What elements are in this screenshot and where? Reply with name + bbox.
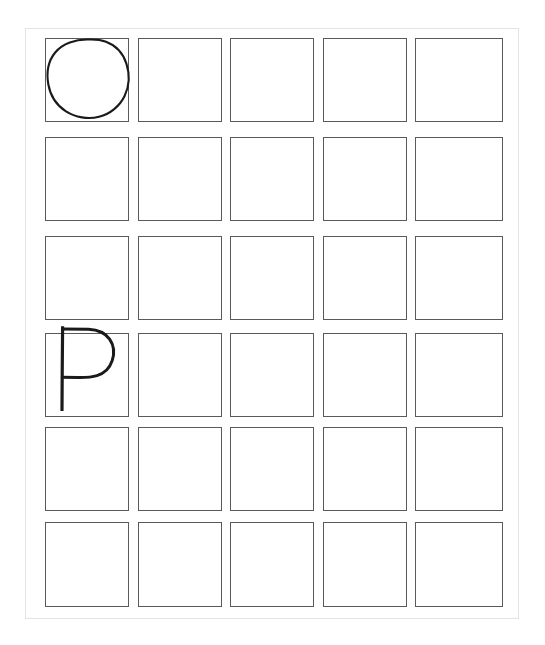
grid-cell[interactable]	[415, 427, 503, 511]
grid-cell[interactable]	[230, 333, 314, 417]
grid-cell[interactable]	[415, 522, 503, 607]
letter-o-glyph	[40, 29, 136, 129]
grid-cell[interactable]	[323, 38, 407, 122]
grid-cell[interactable]	[415, 38, 503, 122]
grid-cell[interactable]	[45, 236, 129, 320]
grid-cell[interactable]	[323, 236, 407, 320]
grid-cell[interactable]	[138, 427, 222, 511]
practice-grid	[0, 0, 545, 645]
grid-cell[interactable]	[323, 137, 407, 221]
grid-cell[interactable]	[230, 38, 314, 122]
grid-cell[interactable]	[230, 522, 314, 607]
grid-cell[interactable]	[230, 236, 314, 320]
worksheet-page	[0, 0, 545, 645]
grid-cell[interactable]	[138, 522, 222, 607]
grid-cell[interactable]	[138, 38, 222, 122]
grid-cell[interactable]	[323, 522, 407, 607]
grid-cell[interactable]	[138, 236, 222, 320]
grid-cell[interactable]	[138, 333, 222, 417]
grid-cell[interactable]	[415, 236, 503, 320]
grid-cell[interactable]	[45, 333, 129, 417]
grid-cell[interactable]	[230, 137, 314, 221]
grid-cell[interactable]	[323, 333, 407, 417]
grid-cell[interactable]	[230, 427, 314, 511]
grid-cell[interactable]	[415, 137, 503, 221]
grid-cell[interactable]	[138, 137, 222, 221]
grid-cell[interactable]	[45, 427, 129, 511]
grid-cell[interactable]	[45, 522, 129, 607]
grid-cell[interactable]	[415, 333, 503, 417]
grid-cell[interactable]	[323, 427, 407, 511]
grid-cell[interactable]	[45, 137, 129, 221]
grid-cell[interactable]	[45, 38, 129, 122]
letter-p-glyph	[40, 324, 136, 424]
